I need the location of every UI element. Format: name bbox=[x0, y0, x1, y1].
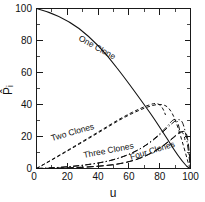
x-tick-labels: 0 20 40 60 80 100 bbox=[31, 171, 199, 182]
x-tick-label-60: 60 bbox=[123, 171, 135, 182]
x-tick-label-40: 40 bbox=[93, 171, 105, 182]
y-tick-label-60: 60 bbox=[21, 67, 33, 78]
curve-label-two-clones: Two Clones bbox=[50, 121, 95, 143]
y-tick-label-80: 80 bbox=[21, 35, 33, 46]
curve-label-four-clones: Four Clones bbox=[129, 139, 176, 162]
y-tick-label-40: 40 bbox=[21, 99, 33, 110]
y-tick-labels: 0 20 40 60 80 100 bbox=[15, 3, 32, 174]
y-tick-label-100: 100 bbox=[15, 3, 32, 14]
y-axis-title: P̂ᵢ bbox=[0, 85, 15, 95]
x-tick-label-0: 0 bbox=[31, 171, 37, 182]
line-chart: 0 20 40 60 80 100 0 20 40 60 80 100 u P̂… bbox=[0, 0, 205, 202]
curve-label-three-clones: Three Clones bbox=[82, 140, 134, 160]
y-tick-label-20: 20 bbox=[21, 131, 33, 142]
x-tick-label-80: 80 bbox=[154, 171, 166, 182]
x-tick-label-100: 100 bbox=[182, 171, 199, 182]
x-tick-label-20: 20 bbox=[62, 171, 74, 182]
x-axis-title: u bbox=[110, 186, 117, 200]
curve-label-one-clone: One Clone bbox=[77, 33, 118, 62]
chart-figure: 0 20 40 60 80 100 0 20 40 60 80 100 u P̂… bbox=[0, 0, 205, 202]
